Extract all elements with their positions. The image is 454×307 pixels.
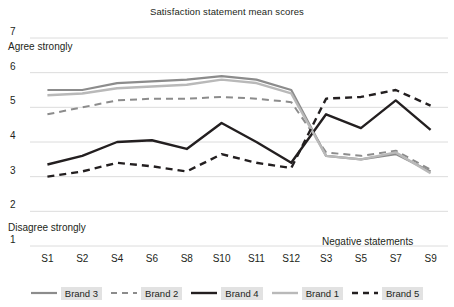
legend-item-brand-1[interactable]: Brand 1 — [272, 287, 343, 300]
legend-swatch-brand-2-icon — [111, 288, 137, 298]
x-axis-tick-labels: S1S2S4S6S8S10S11S12S3S5S7S9 — [0, 253, 454, 269]
x-tick-label-s12: S12 — [282, 253, 300, 264]
chart-container: Satisfaction statement mean scores 76543… — [0, 0, 454, 307]
x-tick-label-s5: S5 — [355, 253, 367, 264]
legend-label: Brand 2 — [141, 287, 182, 300]
chart-legend: Brand 3Brand 2Brand 4Brand 1Brand 5 — [0, 283, 454, 303]
legend-item-brand-5[interactable]: Brand 5 — [352, 287, 423, 300]
x-tick-label-s11: S11 — [248, 253, 265, 264]
legend-item-brand-3[interactable]: Brand 3 — [31, 287, 102, 300]
legend-swatch-brand-1-icon — [272, 288, 298, 298]
x-tick-label-s7: S7 — [390, 253, 402, 264]
legend-label: Brand 3 — [61, 287, 102, 300]
x-tick-label-s2: S2 — [76, 253, 88, 264]
legend-item-brand-2[interactable]: Brand 2 — [111, 287, 182, 300]
legend-item-brand-4[interactable]: Brand 4 — [191, 287, 262, 300]
x-tick-label-s3: S3 — [320, 253, 332, 264]
x-tick-label-s6: S6 — [146, 253, 158, 264]
legend-label: Brand 5 — [382, 287, 423, 300]
legend-label: Brand 1 — [302, 287, 343, 300]
x-tick-label-s9: S9 — [424, 253, 436, 264]
x-tick-label-s4: S4 — [111, 253, 123, 264]
x-tick-label-s8: S8 — [181, 253, 193, 264]
legend-swatch-brand-3-icon — [31, 288, 57, 298]
legend-swatch-brand-4-icon — [191, 288, 217, 298]
legend-swatch-brand-5-icon — [352, 288, 378, 298]
legend-label: Brand 4 — [221, 287, 262, 300]
x-tick-label-s1: S1 — [41, 253, 53, 264]
x-tick-label-s10: S10 — [213, 253, 231, 264]
